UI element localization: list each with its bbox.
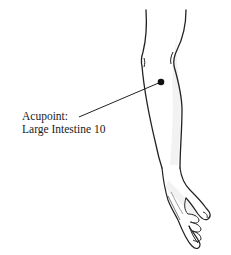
acupoint-marker <box>158 79 165 86</box>
annotation-label-line1: Acupoint: <box>22 110 68 123</box>
figure: Acupoint: Large Intestine 10 <box>0 0 231 255</box>
annotation-label-line2: Large Intestine 10 <box>22 123 105 136</box>
